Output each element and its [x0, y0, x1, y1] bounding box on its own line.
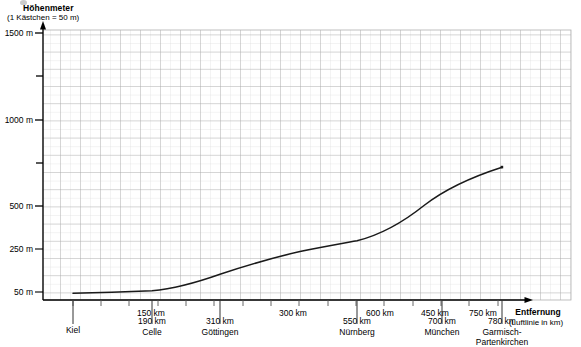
- x-city-kiel: Kiel: [33, 325, 113, 336]
- x-city-nuernberg-km: 550 km: [317, 316, 397, 327]
- x-city-nuernberg-name: Nürnberg: [317, 327, 397, 338]
- y-tick-250: 250 m: [0, 244, 33, 254]
- x-city-nuernberg: 550 km Nürnberg: [317, 316, 397, 337]
- chart-root: Höhenmeter (1 Kästchen = 50 m) 1500 m 10…: [0, 0, 581, 347]
- chart-title: Höhenmeter: [23, 3, 74, 13]
- y-tick-1000: 1000 m: [0, 115, 33, 125]
- x-axis-title: Entfernung: [494, 307, 581, 317]
- y-tick-1500: 1500 m: [0, 28, 33, 38]
- x-city-goettingen-km: 310 km: [180, 316, 260, 327]
- y-tick-500: 500 m: [0, 201, 33, 211]
- scan-artifact: [20, 0, 27, 5]
- plot-grid: [43, 30, 571, 300]
- x-city-goettingen: 310 km Göttingen: [180, 316, 260, 337]
- x-axis-subtitle: (Luftlinie in km): [490, 318, 581, 327]
- chart-canvas: [0, 0, 581, 347]
- x-city-garmisch-name-1: Garmisch-: [457, 327, 547, 338]
- y-tick-50: 50 m: [0, 287, 33, 297]
- chart-subtitle: (1 Kästchen = 50 m): [7, 13, 79, 22]
- x-city-kiel-name: Kiel: [66, 325, 80, 335]
- x-city-goettingen-name: Göttingen: [180, 327, 260, 338]
- x-city-garmisch-name-2: Partenkirchen: [457, 337, 547, 347]
